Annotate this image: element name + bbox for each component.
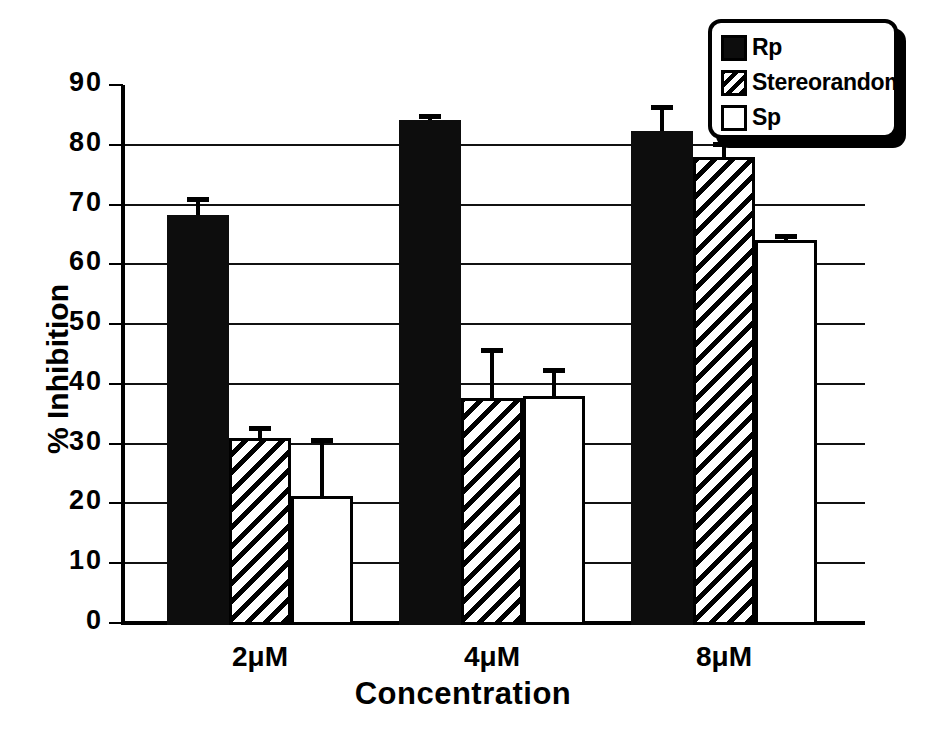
error-bar-cap xyxy=(543,368,565,373)
legend-item-stereorandom[interactable]: Stereorandom xyxy=(721,65,894,100)
y-axis-tick-label: 20 xyxy=(41,485,103,516)
error-bar-cap xyxy=(481,348,503,353)
legend-box: RpStereorandomSp xyxy=(708,19,898,139)
legend-item-rp[interactable]: Rp xyxy=(721,30,894,65)
y-axis-tick-mark xyxy=(109,622,123,624)
legend-item-label: Stereorandom xyxy=(752,69,904,96)
error-bar-cap xyxy=(775,234,797,239)
y-axis-tick-label: 80 xyxy=(41,127,103,158)
error-bar-cap xyxy=(651,105,673,110)
y-axis-tick-label: 70 xyxy=(41,187,103,218)
x-axis-tick-label-2μM: 2μM xyxy=(137,641,383,673)
bar-stereorandom-8μM xyxy=(693,157,755,625)
legend-swatch-solid-icon xyxy=(721,35,747,61)
legend-swatch-hatch-icon xyxy=(721,70,747,96)
y-axis-tick-mark xyxy=(109,204,123,206)
error-bar-cap xyxy=(419,114,441,119)
bar-stereorandom-4μM xyxy=(461,398,523,625)
x-axis-tick-label-8μM: 8μM xyxy=(601,641,847,673)
plot-area xyxy=(121,85,865,623)
error-bar-cap xyxy=(187,197,209,202)
y-axis-tick-mark xyxy=(109,502,123,504)
y-axis-tick-mark xyxy=(109,263,123,265)
bar-rp-4μM xyxy=(399,120,461,625)
y-axis-tick-mark xyxy=(109,562,123,564)
bar-sp-8μM xyxy=(755,240,817,625)
y-axis-tick-label: 60 xyxy=(41,246,103,277)
y-axis-tick-label: 0 xyxy=(41,605,103,636)
bar-rp-2μM xyxy=(167,215,229,625)
y-axis-tick-mark xyxy=(109,84,123,86)
x-axis-tick-label-4μM: 4μM xyxy=(369,641,615,673)
y-axis-tick-label: 10 xyxy=(41,545,103,576)
y-axis-tick-mark xyxy=(109,144,123,146)
y-axis-tick-mark xyxy=(109,383,123,385)
legend: RpStereorandomSp xyxy=(708,19,898,139)
y-axis-tick-mark xyxy=(109,443,123,445)
legend-item-label: Rp xyxy=(752,34,782,61)
x-axis-title: Concentration xyxy=(0,676,926,712)
legend-item-label: Sp xyxy=(752,104,781,131)
y-axis-tick-label: 50 xyxy=(41,306,103,337)
bar-chart-figure: % Inhibition 0102030405060708090 2μM4μM8… xyxy=(0,0,926,741)
error-bar-cap xyxy=(311,438,333,443)
legend-item-sp[interactable]: Sp xyxy=(721,100,894,135)
y-axis-tick-label: 30 xyxy=(41,426,103,457)
y-axis-tick-mark xyxy=(109,323,123,325)
y-axis-tick-label: 90 xyxy=(41,67,103,98)
y-axis-tick-label: 40 xyxy=(41,366,103,397)
bar-rp-8μM xyxy=(631,131,693,625)
error-bar-line xyxy=(490,348,494,398)
error-bar-cap xyxy=(249,426,271,431)
bar-stereorandom-2μM xyxy=(229,438,291,625)
legend-swatch-open-icon xyxy=(721,105,747,131)
bar-sp-2μM xyxy=(291,496,353,625)
error-bar-line xyxy=(320,438,324,495)
bar-sp-4μM xyxy=(523,396,585,625)
y-axis-line xyxy=(121,85,125,623)
